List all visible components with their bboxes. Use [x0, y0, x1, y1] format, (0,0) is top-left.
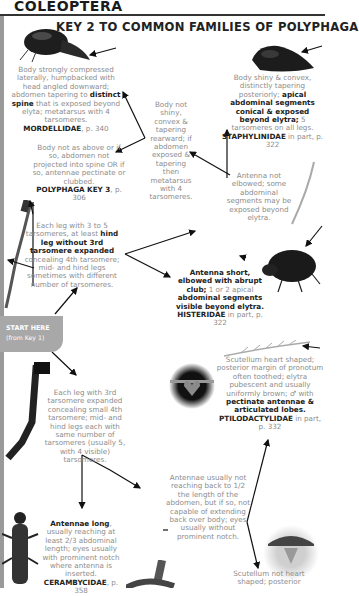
staphylinidae-node: Body shiny & convex, distinctly tapering… [220, 74, 325, 150]
start-here-label: START HERE [6, 324, 50, 332]
start-here-sublabel: (from Key 1) [6, 334, 44, 341]
start-here-tab: START HERE (from Key 1) [0, 316, 63, 352]
polyphaga-key3-node: Body not as above or if so, abdomen not … [32, 144, 126, 203]
leg-3rd-expanded-node: Each leg with 3rd tarsomere expanded con… [40, 389, 130, 465]
histeridae-node: Antenna short, elbowed with abrupt club;… [172, 269, 268, 328]
mordellidae-node: Body strongly compressed laterally, hump… [10, 66, 122, 133]
ptilodactylidae-node: Scutellum heart shaped; posterior margin… [215, 356, 325, 432]
cerambycidae-node: Antennae long, usually reaching at least… [38, 520, 124, 596]
family-name: MORDELLIDAE [23, 124, 81, 133]
leg-3to5-node: Each leg with 3 to 5 tarsomeres, at leas… [22, 222, 122, 289]
family-name: PTILODACTYLIDAE [219, 414, 293, 423]
antenna-not-elbowed-node: Antenna not elbowed; some abdominal segm… [224, 172, 294, 222]
scutellum-not-heart-node: Scutellum not heart shaped; posterior [226, 570, 312, 587]
body-not-shiny-node: Body not shiny, convex & tapering rearwa… [148, 101, 194, 202]
antennae-short-node: Antennae usually not reaching back to 1/… [164, 474, 252, 541]
